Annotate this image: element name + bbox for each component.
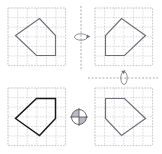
grids-layer [8, 8, 153, 146]
point-symmetry-icon [70, 108, 88, 126]
symmetry-figure-svg [0, 0, 162, 154]
symbols-layer [70, 34, 127, 126]
rotation-arrow-head [86, 34, 90, 38]
rotation-about-horizontal-axis-icon [121, 70, 127, 84]
rotation-about-vertical-axis-icon [75, 34, 91, 40]
symmetry-figure-root [0, 0, 162, 154]
axes-layer [81, 6, 158, 78]
